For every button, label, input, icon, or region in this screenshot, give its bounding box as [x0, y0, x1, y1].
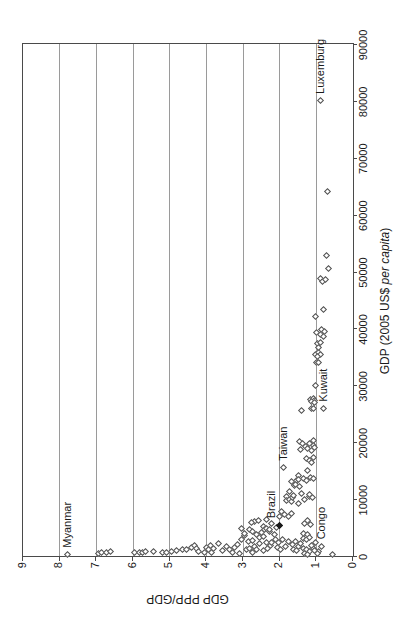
scatter-chart: MyanmarCongoBrazilTaiwanKuwaitLuxemburg … — [0, 0, 401, 618]
data-point — [304, 467, 311, 474]
screenshot-root: MyanmarCongoBrazilTaiwanKuwaitLuxemburg … — [0, 0, 401, 618]
y-tick-label: 9 — [16, 562, 29, 592]
gridline — [59, 44, 60, 556]
y-axis-tick — [95, 557, 96, 561]
x-tick-label: 20000 — [357, 411, 370, 475]
x-axis-title: GDP (2005 US$ per capita) — [378, 45, 392, 557]
data-point — [298, 407, 305, 414]
x-tick-label: 0 — [357, 525, 370, 589]
country-label: Brazil — [265, 491, 278, 519]
y-axis-tick — [242, 557, 243, 561]
data-point — [320, 405, 327, 412]
y-axis-tick — [279, 557, 280, 561]
y-tick-label: 3 — [236, 562, 249, 592]
data-point — [215, 539, 222, 546]
y-axis-tick — [352, 557, 353, 561]
x-axis-title-italic: per capita — [378, 232, 392, 285]
y-axis-tick — [315, 557, 316, 561]
data-point — [325, 265, 332, 272]
x-tick-label: 70000 — [357, 127, 370, 191]
y-axis-title: GDP PPP/GDP — [88, 591, 288, 606]
y-tick-label: 8 — [52, 562, 65, 592]
y-axis-tick — [132, 557, 133, 561]
data-point — [317, 97, 324, 104]
gridline — [279, 44, 280, 556]
data-point — [329, 551, 336, 558]
data-point — [309, 494, 316, 501]
country-label: Taiwan — [277, 427, 290, 461]
y-tick-label: 6 — [126, 562, 139, 592]
x-tick-label: 90000 — [357, 13, 370, 77]
data-point — [320, 306, 327, 313]
country-label: Luxemburg — [314, 39, 327, 94]
y-tick-label: 4 — [199, 562, 212, 592]
data-point — [295, 500, 302, 507]
data-point — [324, 188, 331, 195]
y-axis-tick — [59, 557, 60, 561]
data-point — [150, 548, 157, 555]
data-point — [318, 543, 325, 550]
x-axis-title-prefix: GDP (2005 US$ — [378, 284, 392, 374]
x-tick-label: 30000 — [357, 354, 370, 418]
data-point — [307, 521, 314, 528]
gridline — [169, 44, 170, 556]
y-axis-tick — [22, 557, 23, 561]
country-label: Myanmar — [61, 502, 74, 548]
country-label: Congo — [315, 507, 328, 539]
y-axis-tick — [169, 557, 170, 561]
gridline — [96, 44, 97, 556]
data-point — [280, 464, 287, 471]
y-tick-label: 7 — [89, 562, 102, 592]
data-point — [312, 313, 319, 320]
y-tick-label: 0 — [346, 562, 359, 592]
country-label: Kuwait — [317, 369, 330, 402]
rotated-chart-wrapper: MyanmarCongoBrazilTaiwanKuwaitLuxemburg … — [0, 0, 401, 618]
x-tick-label: 50000 — [357, 241, 370, 305]
y-tick-label: 2 — [272, 562, 285, 592]
data-point — [323, 252, 330, 259]
plot-area: MyanmarCongoBrazilTaiwanKuwaitLuxemburg — [22, 43, 354, 557]
y-tick-label: 5 — [162, 562, 175, 592]
x-tick-label: 60000 — [357, 184, 370, 248]
gridline — [243, 44, 244, 556]
x-axis-title-suffix: ) — [378, 228, 392, 232]
x-tick-label: 40000 — [357, 297, 370, 361]
x-tick-label: 10000 — [357, 468, 370, 532]
gridline — [133, 44, 134, 556]
data-point — [63, 551, 70, 558]
x-tick-label: 80000 — [357, 70, 370, 134]
y-axis-tick — [205, 557, 206, 561]
y-tick-label: 1 — [309, 562, 322, 592]
gridline — [206, 44, 207, 556]
